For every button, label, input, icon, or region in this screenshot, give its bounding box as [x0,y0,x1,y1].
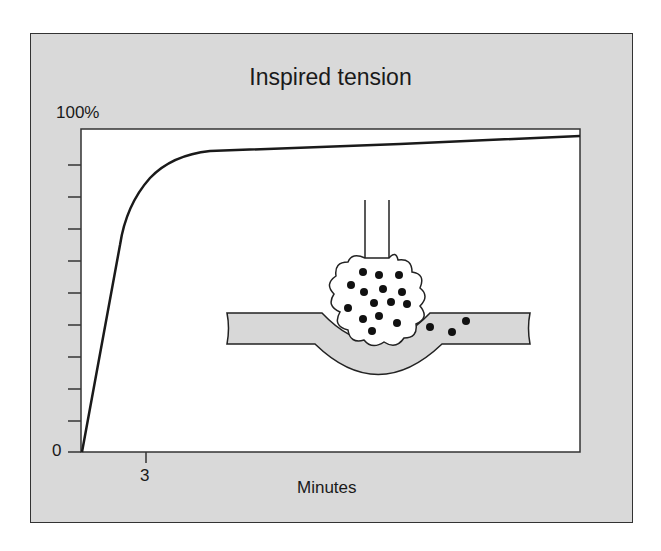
plot-area [0,0,661,551]
y-axis-ticks [68,165,81,452]
